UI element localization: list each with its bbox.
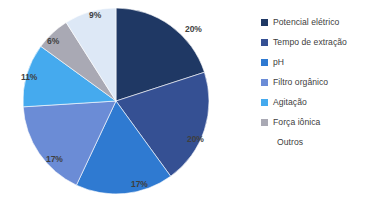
legend-swatch-icon [261, 19, 268, 26]
legend-swatch-icon [261, 119, 268, 126]
legend-item-label: pH [273, 57, 284, 67]
legend-item[interactable]: Filtro orgânico [261, 72, 383, 92]
legend-swatch-icon [261, 139, 268, 146]
pie-chart: 20%20%17%17%11%6%9% Potencial elétricoTe… [0, 0, 384, 197]
pie-plot-area: 20%20%17%17%11%6%9% [0, 0, 232, 197]
legend-item-label: Tempo de extração [273, 37, 347, 47]
legend-swatch-icon [261, 39, 268, 46]
data-label: 11% [21, 72, 37, 82]
legend-item[interactable]: pH [261, 52, 383, 72]
legend: Potencial elétricoTempo de extraçãopHFil… [261, 12, 383, 152]
legend-swatch-icon [261, 59, 268, 66]
legend-swatch-icon [261, 99, 268, 106]
legend-item[interactable]: Tempo de extração [261, 32, 383, 52]
legend-item-label: Outros [273, 137, 303, 147]
legend-item-label: Potencial elétrico [273, 17, 339, 27]
data-label: 6% [47, 36, 59, 46]
legend-item[interactable]: Potencial elétrico [261, 12, 383, 32]
legend-item[interactable]: Força iônica [261, 112, 383, 132]
legend-swatch-icon [261, 79, 268, 86]
legend-item-label: Força iônica [273, 117, 320, 127]
legend-item-label: Filtro orgânico [273, 77, 328, 87]
legend-item[interactable]: Outros [261, 132, 383, 152]
data-label: 9% [89, 10, 101, 20]
data-label: 20% [185, 24, 202, 34]
data-label: 20% [187, 134, 204, 144]
legend-item-label: Agitação [273, 97, 307, 107]
data-label: 17% [46, 154, 63, 164]
data-label: 17% [131, 179, 148, 189]
legend-item[interactable]: Agitação [261, 92, 383, 112]
